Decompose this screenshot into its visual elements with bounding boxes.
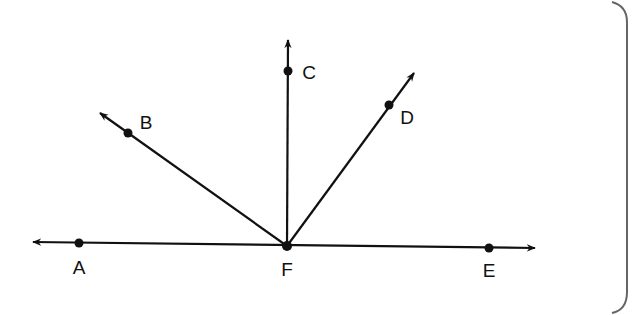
label-e: E bbox=[483, 260, 496, 281]
ray-FD bbox=[287, 73, 414, 246]
point-e bbox=[485, 244, 494, 253]
label-d: D bbox=[400, 107, 414, 128]
frame-border bbox=[612, 2, 627, 313]
label-c: C bbox=[302, 62, 316, 83]
point-f bbox=[282, 241, 292, 251]
points-layer bbox=[75, 67, 494, 253]
point-a bbox=[75, 239, 84, 248]
label-b: B bbox=[140, 112, 153, 133]
geometry-diagram: ABCDEF bbox=[0, 0, 636, 315]
point-d bbox=[385, 101, 394, 110]
point-c bbox=[284, 67, 293, 76]
label-f: F bbox=[281, 259, 293, 280]
label-a: A bbox=[73, 257, 86, 278]
point-b bbox=[124, 129, 133, 138]
